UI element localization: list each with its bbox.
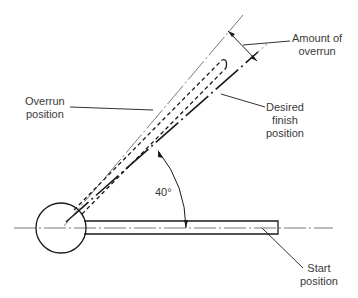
label-start-position: Start position (300, 262, 338, 288)
leader-overrun-position (70, 107, 153, 110)
label-overrun-position: Overrun position (25, 95, 65, 121)
overrun-arrowhead-bottom (250, 55, 257, 61)
label-amount-of-overrun: Amount of overrun (292, 32, 342, 58)
overrun-arrowhead-top (228, 31, 235, 37)
angle-arrowhead-top (158, 150, 163, 158)
desired-finish-extension (258, 43, 268, 52)
angle-arrowhead-bottom (184, 220, 188, 228)
overrun-outline-end (222, 60, 227, 68)
start-position-bar (84, 221, 278, 234)
leader-start-position (262, 228, 303, 268)
label-desired-finish-position: Desired finish position (266, 101, 304, 140)
overrun-outline-upper (74, 60, 222, 210)
leader-desired-finish (221, 94, 265, 107)
overrun-centerline (64, 15, 243, 226)
label-angle: 40° (155, 186, 172, 199)
overrun-outline-lower (82, 68, 226, 214)
